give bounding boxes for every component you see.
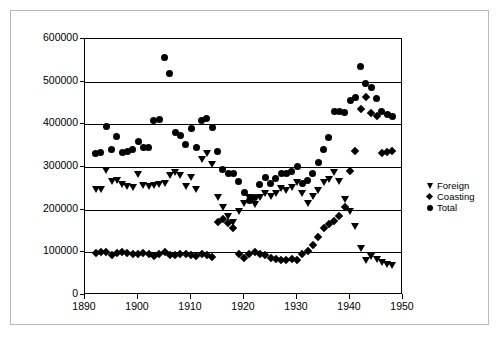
gridline <box>85 210 401 211</box>
data-point-total <box>378 108 385 115</box>
data-point-total <box>299 180 306 187</box>
data-point-coasting <box>351 147 359 155</box>
y-axis-tick-label: 0 <box>72 288 78 299</box>
data-point-foreign <box>293 179 301 186</box>
data-point-total <box>108 146 115 153</box>
data-point-coasting <box>319 224 327 232</box>
plot-area <box>84 38 402 294</box>
gridline <box>85 82 401 83</box>
data-point-total <box>357 63 364 70</box>
data-point-total <box>230 170 237 177</box>
data-point-foreign <box>229 219 237 226</box>
y-axis-tick-label: 400000 <box>43 117 78 128</box>
data-point-total <box>161 54 168 61</box>
data-point-foreign <box>192 186 200 193</box>
x-axis-tick-mark <box>402 294 403 299</box>
data-point-total <box>193 144 200 151</box>
data-point-foreign <box>113 177 121 184</box>
data-point-foreign <box>150 182 158 189</box>
data-point-foreign <box>176 172 184 179</box>
data-point-total <box>272 175 279 182</box>
data-point-total <box>166 70 173 77</box>
data-point-coasting <box>181 250 189 258</box>
data-point-coasting <box>128 249 136 257</box>
data-point-foreign <box>145 183 153 190</box>
data-point-coasting <box>383 148 391 156</box>
data-point-foreign <box>198 156 206 163</box>
chart-legend: Foreign Coasting Total <box>424 180 486 213</box>
data-point-total <box>225 170 232 177</box>
data-point-total <box>203 115 210 122</box>
x-axis-tick-mark <box>190 294 191 299</box>
data-point-total <box>256 181 263 188</box>
legend-item-coasting: Coasting <box>424 191 486 202</box>
data-point-coasting <box>325 219 333 227</box>
data-point-coasting <box>378 149 386 157</box>
circle-icon <box>424 205 435 211</box>
data-point-total <box>241 189 248 196</box>
data-point-total <box>119 149 126 156</box>
data-point-total <box>304 177 311 184</box>
x-axis-tick-label: 1950 <box>384 301 420 312</box>
data-point-foreign <box>304 200 312 207</box>
data-point-foreign <box>373 256 381 263</box>
data-point-coasting <box>388 147 396 155</box>
data-point-foreign <box>203 150 211 157</box>
data-point-foreign <box>224 213 232 220</box>
data-point-foreign <box>123 183 131 190</box>
legend-label: Coasting <box>435 191 475 202</box>
data-point-coasting <box>256 249 264 257</box>
x-axis-tick-label: 1940 <box>331 301 367 312</box>
x-axis-tick-mark <box>296 294 297 299</box>
data-point-total <box>246 197 253 204</box>
data-point-foreign <box>267 193 275 200</box>
data-point-coasting <box>362 93 370 101</box>
data-point-foreign <box>182 183 190 190</box>
data-point-total <box>341 109 348 116</box>
legend-item-foreign: Foreign <box>424 180 486 191</box>
data-point-coasting <box>346 167 354 175</box>
data-point-total <box>113 133 120 140</box>
data-point-foreign <box>314 187 322 194</box>
data-point-coasting <box>372 112 380 120</box>
y-axis-tick-label: 500000 <box>43 75 78 86</box>
data-point-total <box>325 134 332 141</box>
x-axis-tick-label: 1900 <box>119 301 155 312</box>
gridline <box>85 167 401 168</box>
data-point-coasting <box>287 254 295 262</box>
data-point-coasting <box>208 253 216 261</box>
data-point-coasting <box>330 217 338 225</box>
data-point-coasting <box>303 246 311 254</box>
data-point-coasting <box>229 224 237 232</box>
data-point-coasting <box>266 254 274 262</box>
y-axis-tick-label: 600000 <box>43 32 78 43</box>
data-point-foreign <box>298 190 306 197</box>
gridline <box>85 124 401 125</box>
data-point-coasting <box>335 212 343 220</box>
data-point-foreign <box>108 178 116 185</box>
legend-item-total: Total <box>424 202 486 213</box>
data-point-total <box>172 129 179 136</box>
data-point-coasting <box>240 254 248 262</box>
x-axis-tick-mark <box>349 294 350 299</box>
data-point-total <box>135 138 142 145</box>
data-point-total <box>188 125 195 132</box>
data-point-foreign <box>341 196 349 203</box>
data-point-total <box>177 132 184 139</box>
y-axis-tick-label: 100000 <box>43 245 78 256</box>
data-point-total <box>384 111 391 118</box>
data-point-coasting <box>367 109 375 117</box>
y-axis-tick-label: 300000 <box>43 160 78 171</box>
data-point-foreign <box>171 169 179 176</box>
data-point-total <box>331 108 338 115</box>
data-point-total <box>283 170 290 177</box>
data-point-foreign <box>367 253 375 260</box>
data-point-total <box>320 146 327 153</box>
triangle-down-icon <box>424 183 435 189</box>
data-point-total <box>145 144 152 151</box>
x-axis-tick-label: 1890 <box>66 301 102 312</box>
data-point-coasting <box>219 215 227 223</box>
data-point-foreign <box>335 178 343 185</box>
data-point-foreign <box>240 200 248 207</box>
data-point-foreign <box>256 194 264 201</box>
